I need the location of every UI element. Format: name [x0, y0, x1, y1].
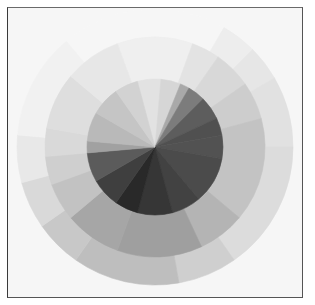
color-circle-artwork: [0, 0, 315, 305]
inner-circle: [87, 79, 223, 215]
